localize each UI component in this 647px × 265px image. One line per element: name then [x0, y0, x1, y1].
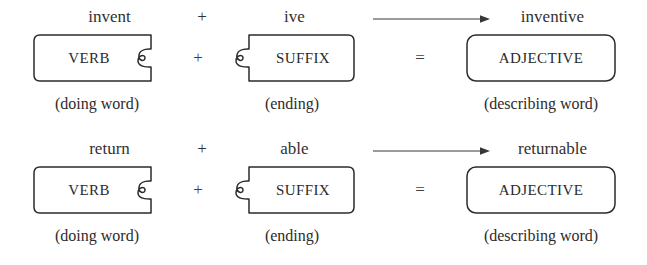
base-word: return [37, 134, 182, 164]
suffix-puzzle-piece: SUFFIX [227, 166, 355, 214]
word-equation-line: invent + ive inventive [0, 2, 647, 32]
equals-operator: = [398, 34, 442, 82]
verb-puzzle-piece: VERB [33, 34, 161, 82]
equation-row: return + able returnable VERB + [0, 134, 647, 259]
caption-line: (doing word) (ending) (describing word) [0, 90, 647, 118]
word-equation-line: return + able returnable [0, 134, 647, 164]
puzzle-box-line: VERB + SUFFIX = ADJECTIVE [0, 34, 647, 92]
verb-caption: (doing word) [22, 90, 172, 118]
suffix-caption: (ending) [228, 90, 356, 118]
result-word: inventive [460, 2, 645, 32]
plus-sign: + [182, 134, 222, 164]
suffix-word: ive [222, 2, 367, 32]
plus-operator: + [178, 34, 218, 82]
equals-operator: = [398, 166, 442, 214]
suffix-puzzle-piece: SUFFIX [227, 34, 355, 82]
adjective-caption: (describing word) [440, 90, 642, 118]
base-word: invent [37, 2, 182, 32]
adjective-box: ADJECTIVE [466, 166, 616, 214]
caption-line: (doing word) (ending) (describing word) [0, 222, 647, 250]
plus-operator: + [178, 166, 218, 214]
suffix-caption: (ending) [228, 222, 356, 250]
adjective-caption: (describing word) [440, 222, 642, 250]
puzzle-box-line: VERB + SUFFIX = ADJECTIVE [0, 166, 647, 224]
adjective-box: ADJECTIVE [466, 34, 616, 82]
suffix-word: able [222, 134, 367, 164]
plus-sign: + [182, 2, 222, 32]
verb-caption: (doing word) [22, 222, 172, 250]
result-word: returnable [460, 134, 645, 164]
equation-row: invent + ive inventive VERB + [0, 2, 647, 127]
verb-puzzle-piece: VERB [33, 166, 161, 214]
diagram-canvas: invent + ive inventive VERB + [0, 0, 647, 265]
